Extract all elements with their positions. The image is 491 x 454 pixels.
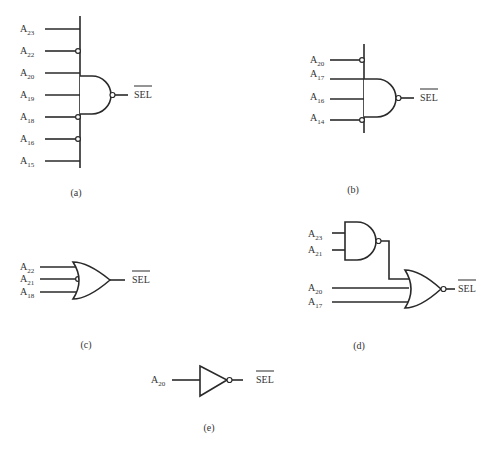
diagram-d: A23 A21 A20 A17 SEL (d) bbox=[308, 222, 476, 352]
svg-text:A20: A20 bbox=[308, 282, 323, 296]
caption: (a) bbox=[70, 187, 81, 199]
output-label: SEL bbox=[134, 89, 152, 100]
svg-text:A18: A18 bbox=[20, 286, 35, 300]
address-decoder-diagrams: A23 A22 A20 A19 A18 A16 A15 SEL (a) A20 … bbox=[0, 0, 491, 454]
svg-text:A16: A16 bbox=[20, 133, 35, 147]
inversion-bubble-icon bbox=[396, 96, 401, 101]
svg-text:A23: A23 bbox=[308, 228, 323, 242]
inversion-bubble-icon bbox=[110, 93, 115, 98]
svg-text:A17: A17 bbox=[310, 68, 325, 82]
or-gate-icon bbox=[73, 262, 110, 299]
svg-text:A19: A19 bbox=[20, 89, 35, 103]
not-gate-icon bbox=[200, 366, 227, 396]
inversion-bubble-icon bbox=[360, 118, 365, 123]
svg-text:A20: A20 bbox=[151, 374, 166, 388]
caption: (d) bbox=[353, 340, 365, 352]
diagram-b: A20 A17 A16 A14 SEL (b) bbox=[310, 44, 438, 196]
svg-text:A20: A20 bbox=[20, 67, 35, 81]
svg-text:A17: A17 bbox=[308, 296, 323, 310]
diagram-e: A20 SEL (e) bbox=[151, 366, 274, 434]
inversion-bubble-icon bbox=[76, 49, 81, 54]
caption: (b) bbox=[347, 184, 359, 196]
and-gate-icon bbox=[80, 76, 111, 114]
inversion-bubble-icon bbox=[76, 115, 81, 120]
output-label: SEL bbox=[420, 92, 438, 103]
and-gate-icon bbox=[345, 222, 376, 260]
and-gate-icon bbox=[364, 79, 396, 117]
inversion-bubble-icon bbox=[227, 378, 232, 383]
inversion-bubble-icon bbox=[376, 239, 381, 244]
diagram-c: A22 A21 A18 SEL (c) bbox=[20, 261, 150, 351]
diagram-a: A23 A22 A20 A19 A18 A16 A15 SEL (a) bbox=[20, 16, 152, 199]
svg-text:A23: A23 bbox=[20, 23, 35, 37]
output-label: SEL bbox=[132, 274, 150, 285]
inversion-bubble-icon bbox=[76, 137, 81, 142]
nor-gate-icon bbox=[405, 270, 441, 308]
output-label: SEL bbox=[458, 283, 476, 294]
svg-text:A21: A21 bbox=[20, 273, 35, 287]
svg-text:A20: A20 bbox=[310, 54, 325, 68]
caption: (c) bbox=[80, 339, 91, 351]
svg-text:A18: A18 bbox=[20, 111, 35, 125]
inversion-bubble-icon bbox=[441, 287, 446, 292]
caption: (e) bbox=[203, 422, 214, 434]
svg-text:A16: A16 bbox=[310, 91, 325, 105]
svg-text:A22: A22 bbox=[20, 45, 35, 59]
svg-text:A21: A21 bbox=[308, 244, 323, 258]
output-label: SEL bbox=[256, 374, 274, 385]
svg-text:A15: A15 bbox=[20, 155, 35, 169]
svg-text:A14: A14 bbox=[310, 112, 325, 126]
inversion-bubble-icon bbox=[360, 58, 365, 63]
